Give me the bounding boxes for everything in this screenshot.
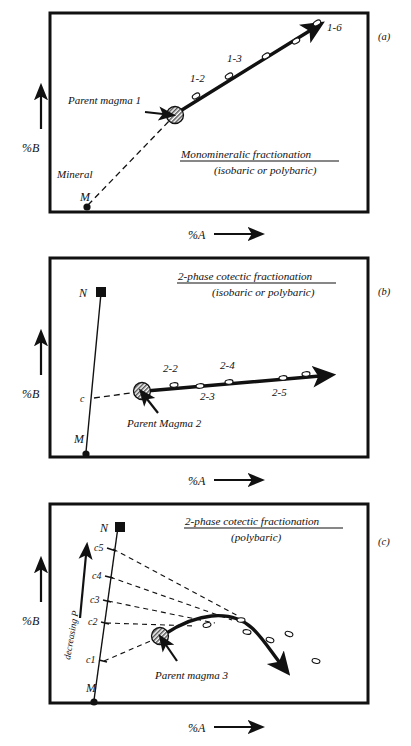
panel-b-cotectic-line: [86, 293, 101, 452]
panel-a-mineral-point-label: M: [79, 190, 91, 204]
panel-a-subtitle: (isobaric or polybaric): [214, 164, 317, 177]
panel-c-cotectic-label-c1: c1: [86, 654, 95, 665]
panel-b-m-label: M: [73, 432, 85, 446]
panel-c-m-label: M: [85, 681, 97, 695]
panel-c-trend-curve: [165, 616, 280, 663]
panel-a: %B %A: [22, 13, 368, 242]
panel-a-point-label-1: 1-2: [190, 72, 205, 84]
panel-c-cotectic-label-c3: c3: [90, 594, 99, 605]
panel-c-control-lines: [104, 549, 240, 661]
panel-a-point-label-3: 1-6: [327, 21, 342, 33]
panel-c-parent-label: Parent magma 3: [154, 669, 228, 681]
panel-a-title: Monomineralic fractionation: [180, 148, 312, 160]
x-axis-label-b: %A: [188, 474, 206, 488]
panel-a-frame: [50, 13, 368, 212]
panel-b-n-label: N: [78, 286, 88, 300]
x-axis-label-c: %A: [188, 721, 206, 735]
panel-c-x-axis: %A: [188, 721, 252, 735]
panel-c-title: 2-phase cotectic fractionation: [185, 515, 320, 527]
panel-c-n-label: N: [99, 521, 109, 535]
panel-b-phase-n-marker: [96, 287, 106, 297]
panel-b-c-label: c: [80, 393, 85, 404]
y-axis-label: %B: [22, 141, 40, 155]
panel-a-mineral-label: Mineral: [56, 168, 92, 180]
panel-c-mineral-dot: [90, 698, 97, 705]
y-axis-label-b: %B: [22, 387, 40, 401]
panel-a-tag: (a): [378, 31, 391, 43]
panel-a-mineral-dot: [83, 203, 90, 210]
panel-a-parent-label: Parent magma 1: [67, 94, 141, 106]
figure-svg: %B %A %B: [0, 0, 411, 746]
panel-c-cotectic-label-c4: c4: [92, 570, 101, 581]
panel-a-x-axis: %A: [188, 228, 252, 242]
panel-b-point-label-3: 2-4: [220, 359, 235, 371]
panel-b-point-label-1: 2-2: [163, 362, 178, 374]
panel-c-parent-pointer: [166, 645, 177, 661]
panel-c-cotectic-label-c5: c5: [94, 542, 103, 553]
panel-b-mineral-dot: [82, 450, 89, 457]
panel-a-point-label-2: 1-3: [227, 52, 242, 64]
x-axis-label: %A: [188, 228, 206, 242]
panel-a-data-points: [191, 19, 321, 100]
panel-b-x-axis: %A: [188, 474, 252, 488]
panel-c-phase-n-marker: [115, 522, 125, 532]
panel-b-parent-label: Parent Magma 2: [126, 417, 202, 429]
panel-b-point-label-4: 2-5: [272, 386, 287, 398]
panel-b-tag: (b): [378, 286, 391, 298]
panel-b-title: 2-phase cotectic fractionation: [178, 270, 313, 282]
panel-b-point-label-2: 2-3: [200, 390, 215, 402]
panel-b: %B %A: [22, 258, 368, 488]
panel-b-subtitle: (isobaric or polybaric): [212, 286, 315, 299]
y-axis-label-c: %B: [22, 614, 40, 628]
panel-b-parent-pointer: [147, 399, 158, 413]
panel-c-y-axis: %B: [22, 569, 41, 628]
panel-c-parent-magma-marker: [152, 628, 169, 645]
panel-b-control-line: [94, 392, 138, 398]
panel-a-parent-pointer: [145, 112, 163, 114]
panel-b-parent-magma-marker: [134, 383, 151, 400]
panel-c-tag: (c): [378, 536, 390, 548]
panel-c-pressure-arrow: [80, 555, 86, 618]
panel-c-subtitle: (polybaric): [231, 531, 282, 544]
panel-c-pressure-label: decreasing P: [62, 610, 80, 661]
figure-root: %B %A %B: [0, 0, 411, 746]
panel-b-y-axis: %B: [22, 342, 41, 401]
panel-a-y-axis: %B: [22, 96, 41, 155]
panel-c-cotectic-label-c2: c2: [88, 616, 97, 627]
panel-a-control-line: [88, 118, 172, 205]
panel-a-parent-magma-marker: [167, 107, 184, 124]
